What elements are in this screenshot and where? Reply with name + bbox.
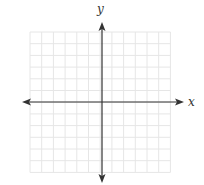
- x-axis-label: x: [188, 95, 195, 109]
- coordinate-plane: x y: [0, 0, 204, 185]
- y-axis-label: y: [96, 2, 104, 16]
